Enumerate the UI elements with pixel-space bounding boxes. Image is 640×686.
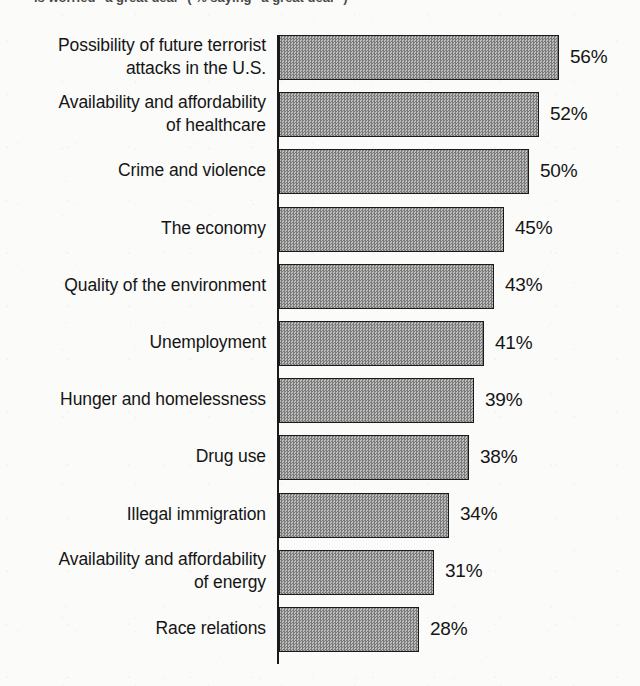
bar-value-label: 39% — [485, 389, 522, 411]
bar — [279, 264, 494, 309]
bar-value-label: 28% — [430, 618, 467, 640]
horizontal-bar-chart: Possibility of future terrorist attacks … — [0, 0, 640, 686]
bar — [279, 493, 449, 538]
bar — [279, 321, 484, 366]
category-label: The economy — [161, 217, 266, 240]
category-label: Race relations — [156, 617, 266, 640]
bar-value-label: 45% — [515, 217, 552, 239]
bar-value-label: 56% — [570, 46, 607, 68]
bar — [279, 378, 474, 423]
bar-value-label: 43% — [505, 274, 542, 296]
category-label: Drug use — [196, 445, 266, 468]
bar — [279, 207, 504, 252]
bar-value-label: 50% — [540, 160, 577, 182]
category-label: Quality of the environment — [64, 274, 266, 297]
bar-value-label: 31% — [445, 560, 482, 582]
bar — [279, 435, 469, 480]
category-label: Possibility of future terrorist attacks … — [58, 34, 266, 80]
bar — [279, 35, 559, 80]
category-label: Availability and affordability of energy — [59, 548, 266, 594]
caption-text: is worried "a great deal" ( % saying "a … — [34, 0, 348, 5]
bar — [279, 607, 419, 652]
bar-value-label: 34% — [460, 503, 497, 525]
category-label: Crime and violence — [118, 159, 266, 182]
bar — [279, 550, 434, 595]
category-label: Illegal immigration — [127, 503, 266, 526]
category-label: Unemployment — [150, 331, 267, 354]
bar — [279, 92, 539, 137]
category-label: Availability and affordability of health… — [59, 91, 266, 137]
bar-value-label: 52% — [550, 103, 587, 125]
category-label: Hunger and homelessness — [60, 388, 266, 411]
bar-value-label: 41% — [495, 332, 532, 354]
clipped-caption-strip: is worried "a great deal" ( % saying "a … — [0, 0, 640, 9]
bar-value-label: 38% — [480, 446, 517, 468]
bar — [279, 149, 529, 194]
